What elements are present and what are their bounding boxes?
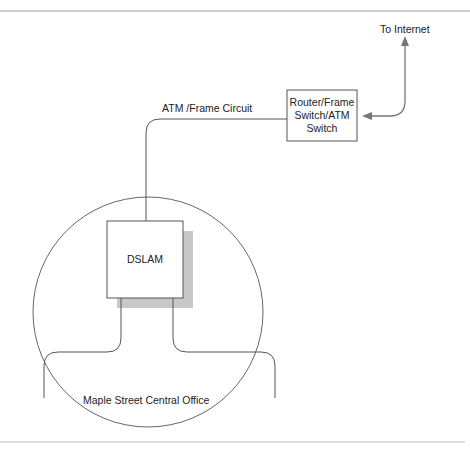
router-label-line2: Switch/ATM — [287, 109, 357, 122]
central-office-label: Maple Street Central Office — [83, 394, 209, 406]
arrowhead-left-icon — [362, 112, 372, 120]
network-diagram — [0, 0, 470, 453]
right-subscriber-wire — [173, 298, 275, 398]
router-label-line3: Switch — [287, 122, 357, 135]
router-label-line1: Router/Frame — [287, 96, 357, 109]
internet-link-line — [370, 44, 405, 116]
dslam-label: DSLAM — [107, 253, 183, 266]
arrowhead-up-icon — [401, 36, 409, 46]
left-subscriber-wire — [44, 298, 121, 398]
to-internet-label: To Internet — [380, 23, 430, 35]
atm-frame-circuit-line — [146, 119, 287, 221]
router-label: Router/Frame Switch/ATM Switch — [287, 96, 357, 135]
circuit-label: ATM /Frame Circuit — [162, 102, 252, 114]
